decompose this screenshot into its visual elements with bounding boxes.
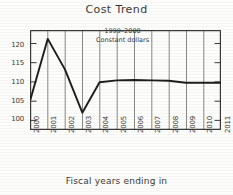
x-tick-label-2009: 2009 [189,116,197,133]
x-tick-label-2004: 2004 [102,116,110,133]
x-tick-label-2000: 2000 [33,116,41,133]
x-tick-label-2007: 2007 [154,116,162,133]
x-tick-label-2010: 2010 [206,116,214,133]
annotation-line-1: 1999–2000 [75,27,170,36]
chart-annotation: 1999–2000 Constant dollars [75,27,170,46]
x-tick-label-2003: 2003 [85,116,93,133]
x-tick-label-2006: 2006 [137,116,145,133]
x-tick-label-2002: 2002 [68,116,76,133]
cost-trend-chart: Cost Trend 120 115 110 105 100 [0,0,233,195]
y-tick-label-105: 105 [4,97,24,105]
chart-title: Cost Trend [0,3,233,16]
x-axis-caption: Fiscal years ending in [0,176,233,186]
x-tick-label-2008: 2008 [172,116,180,133]
cost-trend-line [31,39,221,113]
y-tick-label-115: 115 [4,59,24,67]
annotation-line-2: Constant dollars [75,36,170,45]
x-tick-label-2001: 2001 [50,116,58,133]
x-tick-label-2011: 2011 [224,116,232,133]
y-tick-label-120: 120 [4,41,24,49]
y-tick-label-110: 110 [4,78,24,86]
x-tick-label-2005: 2005 [120,116,128,133]
y-tick-label-100: 100 [4,115,24,123]
